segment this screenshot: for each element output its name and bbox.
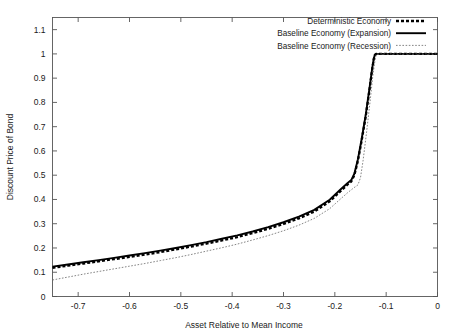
legend-label-0: Deterministic Economy bbox=[307, 17, 392, 26]
x-tick-label: 0 bbox=[435, 301, 440, 311]
x-tick-label: -0.7 bbox=[71, 301, 86, 311]
x-tick-label: -0.4 bbox=[225, 301, 240, 311]
y-tick-label: 0.6 bbox=[34, 146, 46, 156]
x-tick-label: -0.3 bbox=[276, 301, 291, 311]
x-tick-label: -0.1 bbox=[379, 301, 394, 311]
y-tick-label: 0.5 bbox=[34, 170, 46, 180]
series-lines bbox=[53, 54, 438, 280]
y-tick-label: 0.3 bbox=[34, 219, 46, 229]
axis-frame bbox=[53, 18, 438, 297]
y-tick-label: 1 bbox=[41, 49, 46, 59]
series-line-2 bbox=[53, 54, 438, 280]
legend-label-1: Baseline Economy (Expansion) bbox=[277, 29, 391, 38]
x-tick-label: -0.5 bbox=[174, 301, 189, 311]
y-tick-label: 0.2 bbox=[34, 243, 46, 253]
y-tick-label: 0.7 bbox=[34, 122, 46, 132]
line-chart: -0.7-0.6-0.5-0.4-0.3-0.2-0.10 00.10.20.3… bbox=[0, 0, 454, 334]
y-tick-label: 0.4 bbox=[34, 194, 46, 204]
y-tick-label: 0.8 bbox=[34, 97, 46, 107]
y-tick-label: 0 bbox=[41, 292, 46, 302]
x-tick-label: -0.6 bbox=[122, 301, 137, 311]
legend-label-2: Baseline Economy (Recession) bbox=[277, 42, 391, 51]
x-tick-label: -0.2 bbox=[328, 301, 343, 311]
chart-figure: -0.7-0.6-0.5-0.4-0.3-0.2-0.10 00.10.20.3… bbox=[0, 0, 454, 334]
chart-legend: Deterministic EconomyBaseline Economy (E… bbox=[277, 17, 426, 50]
y-tick-label: 0.1 bbox=[34, 267, 46, 277]
y-tick-label: 0.9 bbox=[34, 73, 46, 83]
y-tick-label: 1.1 bbox=[34, 25, 46, 35]
series-line-0 bbox=[53, 54, 438, 268]
x-axis-title: Asset Relative to Mean Income bbox=[185, 320, 303, 330]
y-axis-title: Discount Price of Bond bbox=[5, 114, 15, 201]
